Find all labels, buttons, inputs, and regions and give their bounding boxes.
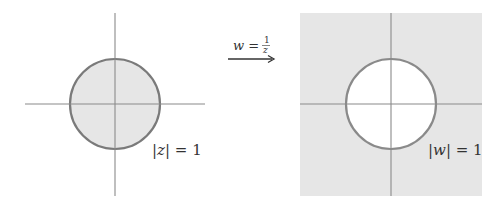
mapping-label: w = bbox=[233, 38, 259, 53]
w-circle-label: |w| = 1 bbox=[428, 141, 483, 159]
left-panel: |z| = 1 bbox=[25, 13, 205, 196]
mapping-arrow: w = 1 z bbox=[228, 35, 274, 63]
z-circle-label: |z| = 1 bbox=[152, 141, 202, 159]
right-panel: |w| = 1 bbox=[300, 13, 483, 196]
fraction-denominator: z bbox=[262, 45, 268, 55]
fraction-numerator: 1 bbox=[264, 35, 270, 45]
diagram-canvas: |z| = 1 w = 1 z |w| = 1 bbox=[0, 0, 502, 208]
